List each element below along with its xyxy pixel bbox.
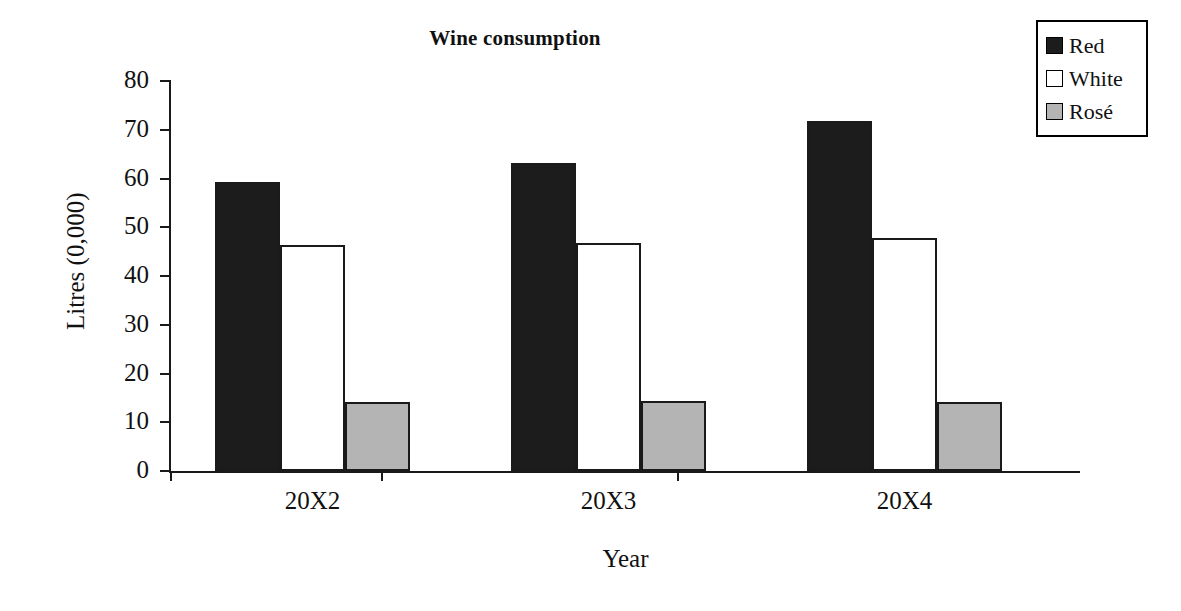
bar-red-20X3[interactable] [511, 163, 576, 471]
y-tick-label: 60 [89, 164, 149, 192]
y-tick-label: 30 [89, 310, 149, 338]
wine-consumption-chart: Wine consumption Red White Rosé Litres (… [0, 0, 1181, 611]
chart-title: Wine consumption [0, 26, 1030, 51]
x-tick-label: 20X4 [877, 487, 933, 515]
legend-swatch-red-icon [1046, 37, 1063, 54]
y-axis-line [169, 80, 171, 472]
y-tick-label: 40 [89, 261, 149, 289]
x-tick [677, 471, 679, 481]
legend-item-red[interactable]: Red [1046, 29, 1139, 62]
x-tick [381, 471, 383, 481]
y-tick [160, 421, 169, 423]
bar-red-20X4[interactable] [807, 121, 872, 471]
x-tick-origin [170, 471, 172, 481]
y-tick-label: 20 [89, 359, 149, 387]
bar-white-20X4[interactable] [872, 238, 937, 471]
bar-white-20X3[interactable] [576, 243, 641, 471]
y-tick [160, 324, 169, 326]
y-tick [160, 226, 169, 228]
y-tick-label: 50 [89, 213, 149, 241]
y-tick [160, 178, 169, 180]
bar-white-20X2[interactable] [280, 245, 345, 471]
bar-ros-20X4[interactable] [937, 402, 1002, 471]
y-tick [160, 275, 169, 277]
y-tick [160, 129, 169, 131]
y-tick-label: 0 [89, 456, 149, 484]
bar-ros-20X3[interactable] [641, 401, 706, 471]
bar-red-20X2[interactable] [215, 182, 280, 471]
y-tick [160, 80, 169, 82]
y-tick-label: 70 [89, 115, 149, 143]
bar-ros-20X2[interactable] [345, 402, 410, 471]
x-tick-label: 20X2 [285, 487, 341, 515]
x-axis-line [169, 471, 1080, 473]
x-tick-label: 20X3 [581, 487, 637, 515]
y-tick [160, 470, 169, 472]
legend-label-red: Red [1069, 35, 1104, 57]
plot-area: 01020304050607080 20X220X320X4 [171, 81, 1080, 471]
x-axis-title: Year [171, 545, 1080, 573]
y-tick-label: 10 [89, 408, 149, 436]
y-tick-label: 80 [89, 66, 149, 94]
y-axis-title-text: Litres (0,000) [62, 193, 90, 330]
y-tick [160, 373, 169, 375]
